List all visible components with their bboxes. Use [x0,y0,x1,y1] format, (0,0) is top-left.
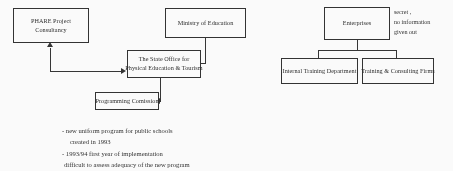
node-internal-training-department[interactable]: Internal Training Department [281,58,358,84]
node-programming-comission[interactable]: Programming Comission [95,92,159,110]
node-state-office-line-2: Physical Education & Tourism [125,64,202,73]
diagram-canvas: PHARE Project Consultancy Ministry of Ed… [0,0,453,171]
connector-state-office-to-phare-horizontal [50,71,121,72]
node-ministry-line-1: Ministry of Education [178,19,234,28]
connector-state-office-to-programming-vertical [160,78,161,101]
node-programming-line-1: Programming Comission [95,97,158,106]
note-line-3: - 1993/94 first year of implementation [62,148,322,159]
annotation-secret-line-1: secret , [394,8,452,18]
node-enterprises[interactable]: Enterprises [324,7,390,40]
node-state-office-line-1: The State Office for [139,55,190,64]
node-phare-line-1: PHARE Project [31,17,71,26]
node-phare-project-consultancy[interactable]: PHARE Project Consultancy [13,8,89,43]
node-phare-line-2: Consultancy [35,26,66,35]
connector-state-office-to-phare-vertical [50,48,51,72]
node-training-consulting-firms[interactable]: Training & Consulting Firms [362,58,434,84]
node-state-office[interactable]: The State Office for Physical Education … [127,50,201,78]
annotation-secret-line-2: no information [394,18,452,28]
annotation-secret-no-information: secret , no information given out [394,8,452,38]
note-line-4: difficult to assess adequacy of the new … [62,159,322,170]
node-consulting-firms-line-1: Training & Consulting Firms [361,67,435,76]
connector-to-internal-training [318,50,319,58]
note-line-2: created in 1993 [62,136,322,147]
connector-to-consulting-firms [396,50,397,58]
note-line-1: - new uniform program for public schools [62,125,322,136]
annotation-secret-line-3: given out [394,28,452,38]
node-ministry-of-education[interactable]: Ministry of Education [165,8,246,38]
connector-enterprises-crossbar [318,50,397,51]
node-internal-training-line-1: Internal Training Department [283,67,357,76]
node-enterprises-line-1: Enterprises [343,19,371,28]
connector-ministry-to-state-office-vertical [205,38,206,64]
notes-block: - new uniform program for public schools… [62,125,322,170]
